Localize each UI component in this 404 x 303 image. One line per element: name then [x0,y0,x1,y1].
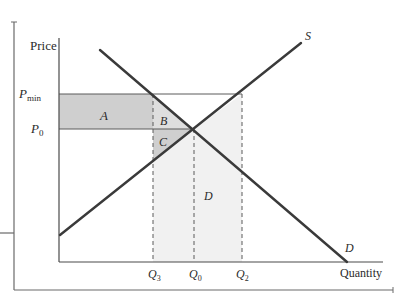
price-floor-diagram: Price Quantity Pmin P0 Q3 Q0 Q2 S D A B … [0,0,404,303]
p-min-main: P [18,86,27,101]
p-min-sub: min [27,93,42,103]
q2-main: Q [236,267,245,281]
p0-label: P0 [30,121,44,138]
q0-label: Q0 [189,267,202,283]
q0-sub: 0 [198,274,202,283]
region-d-label: D [203,189,213,203]
q3-label: Q3 [148,267,161,283]
y-axis-label: Price [30,38,57,53]
p0-sub: 0 [39,128,44,138]
p-min-label: Pmin [18,86,41,103]
region-b-label: B [160,114,168,128]
supply-label: S [305,29,311,43]
q2-sub: 2 [245,274,249,283]
q0-main: Q [189,267,198,281]
q3-sub: 3 [157,274,161,283]
region-a-label: A [99,108,108,123]
demand-label: D [344,241,354,255]
q3-main: Q [148,267,157,281]
q2-label: Q2 [236,267,249,283]
region-c-label: C [159,135,168,149]
x-axis-label: Quantity [340,266,382,280]
p0-main: P [30,121,39,136]
